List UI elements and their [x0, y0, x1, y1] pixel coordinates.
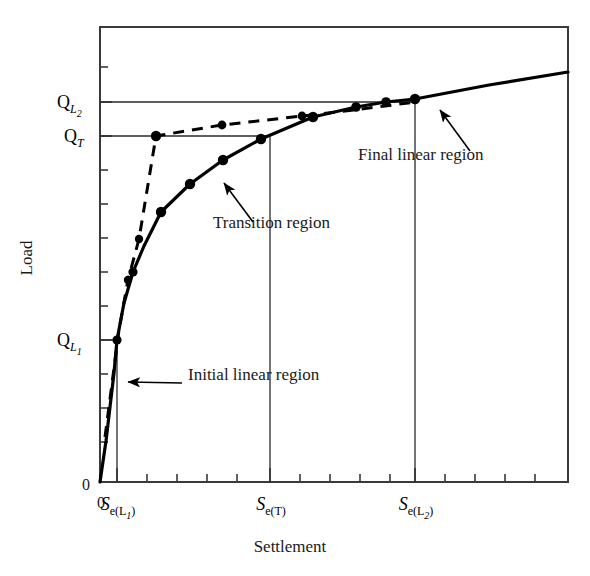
load-settlement-chart: Initial linear region Transition region …: [0, 0, 590, 576]
y-origin-label: 0: [82, 476, 90, 493]
data-point: [151, 131, 161, 141]
x-axis-title: Settlement: [254, 537, 327, 556]
initial-linear-region-label: Initial linear region: [188, 365, 320, 384]
final-linear-region-label: Final linear region: [358, 145, 484, 164]
data-point: [256, 134, 266, 144]
data-point: [410, 94, 420, 104]
data-point: [112, 335, 121, 344]
transition-region-label: Transition region: [213, 213, 330, 232]
data-point: [135, 235, 143, 243]
y-axis-title: Load: [17, 240, 36, 275]
initial-linear-region-arrow: [128, 382, 182, 383]
data-point: [381, 97, 391, 107]
data-point: [128, 267, 137, 276]
data-point: [124, 276, 132, 284]
data-point: [351, 102, 361, 112]
data-point: [185, 179, 195, 189]
data-point: [308, 112, 318, 122]
data-point: [298, 112, 307, 121]
data-point: [156, 207, 166, 217]
data-point: [218, 155, 228, 165]
data-point: [218, 121, 227, 130]
